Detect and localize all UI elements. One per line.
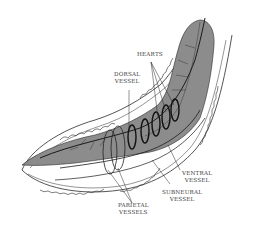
label-dorsal-vessel-line1: DORSAL bbox=[114, 71, 140, 78]
label-ventral-vessel: VENTRAL VESSEL bbox=[182, 170, 212, 184]
label-hearts: HEARTS bbox=[137, 51, 163, 58]
label-parietal-vessels-line2: VESSELS bbox=[118, 209, 149, 216]
earthworm-circulatory-diagram bbox=[0, 0, 253, 230]
label-parietal-vessels: PARIETAL VESSELS bbox=[118, 202, 149, 216]
label-dorsal-vessel-line2: VESSEL bbox=[114, 78, 140, 85]
gut bbox=[22, 20, 214, 165]
label-parietal-vessels-line1: PARIETAL bbox=[118, 202, 149, 209]
label-subneural-vessel-line1: SUBNEURAL bbox=[162, 189, 202, 196]
label-ventral-vessel-line2: VESSEL bbox=[182, 177, 212, 184]
label-dorsal-vessel: DORSAL VESSEL bbox=[114, 71, 140, 85]
label-subneural-vessel: SUBNEURAL VESSEL bbox=[162, 189, 202, 203]
label-subneural-vessel-line2: VESSEL bbox=[162, 196, 202, 203]
label-ventral-vessel-line1: VENTRAL bbox=[182, 170, 212, 177]
